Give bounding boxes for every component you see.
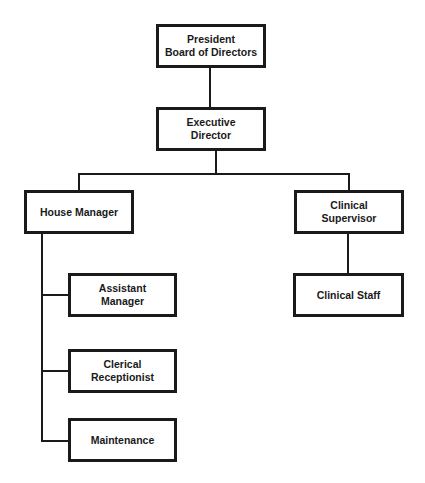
connector-house-manager-trunk xyxy=(41,233,43,442)
node-label-line1: Assistant xyxy=(99,282,146,295)
connector-president-executive xyxy=(209,67,211,107)
node-house-manager: House Manager xyxy=(24,190,134,234)
node-label-line1: Clinical Staff xyxy=(317,289,381,302)
node-label-line1: House Manager xyxy=(40,206,118,219)
node-label-line2: Director xyxy=(191,129,231,142)
node-label-line2: Receptionist xyxy=(91,371,154,384)
node-label-line2: Board of Directors xyxy=(165,46,257,59)
connector-to-maintenance xyxy=(41,440,69,442)
node-label-line1: President xyxy=(187,33,235,46)
node-executive-director: Executive Director xyxy=(156,107,266,151)
node-maintenance: Maintenance xyxy=(68,418,177,462)
node-president: President Board of Directors xyxy=(156,24,266,68)
node-label-line1: Executive xyxy=(186,116,235,129)
connector-executive-down xyxy=(215,150,217,175)
node-clinical-staff: Clinical Staff xyxy=(293,273,404,317)
node-clerical-receptionist: Clerical Receptionist xyxy=(68,349,177,393)
node-label-line2: Manager xyxy=(101,295,144,308)
connector-branch-horizontal xyxy=(78,173,350,175)
connector-supervisor-staff xyxy=(347,233,349,274)
node-label-line1: Maintenance xyxy=(91,434,155,447)
connector-to-clerical xyxy=(41,370,69,372)
connector-to-assistant-manager xyxy=(41,294,69,296)
connector-to-house-manager xyxy=(78,173,80,191)
node-label-line2: Supervisor xyxy=(322,212,377,225)
node-label-line1: Clinical xyxy=(330,199,367,212)
node-assistant-manager: Assistant Manager xyxy=(68,273,177,317)
node-label-line1: Clerical xyxy=(104,358,142,371)
node-clinical-supervisor: Clinical Supervisor xyxy=(294,190,404,234)
connector-to-clinical-supervisor xyxy=(348,173,350,191)
